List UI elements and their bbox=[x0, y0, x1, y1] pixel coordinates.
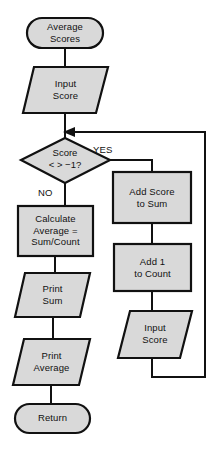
flowchart-canvas: Average Scores Input Score Score < > −1?… bbox=[0, 0, 219, 458]
node-printavg-shape bbox=[13, 339, 90, 385]
node-addscore-shape bbox=[113, 172, 191, 223]
edge-label-no: NO bbox=[38, 187, 53, 198]
node-input2-shape bbox=[118, 311, 192, 358]
node-return-shape bbox=[15, 404, 90, 433]
flowchart-graphics bbox=[0, 0, 219, 458]
connector-decision-yes-to-addscore bbox=[110, 160, 152, 172]
node-printsum-shape bbox=[15, 273, 90, 317]
node-input1-shape bbox=[23, 67, 108, 113]
node-calc-shape bbox=[18, 206, 93, 256]
node-addcount-shape bbox=[114, 244, 191, 291]
node-start-shape bbox=[27, 18, 103, 48]
edge-label-yes: YES bbox=[93, 144, 113, 155]
